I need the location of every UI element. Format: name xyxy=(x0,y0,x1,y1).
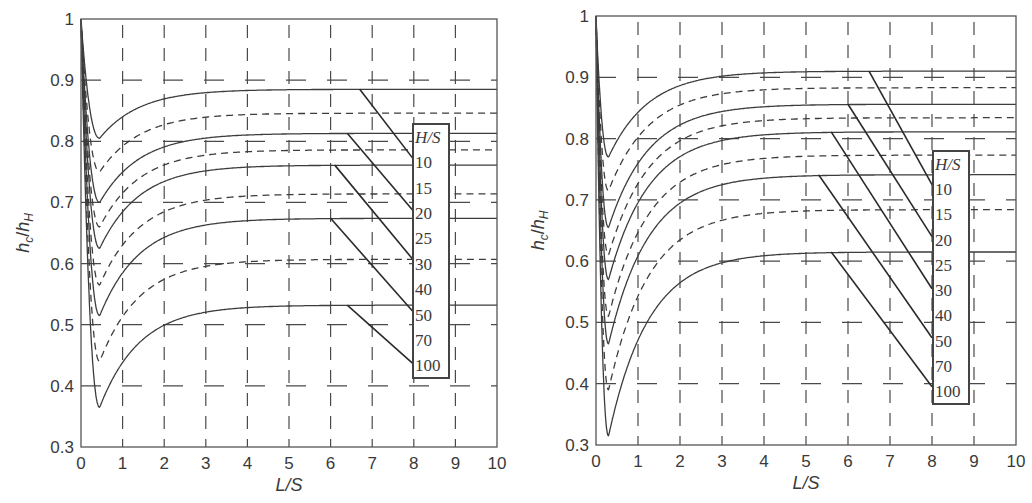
y-tick-label: 0.5 xyxy=(565,313,589,332)
x-tick-label: 10 xyxy=(1007,452,1026,471)
chart-figure: 0123456789100.30.40.50.60.70.80.91L/Shc/… xyxy=(0,0,1032,503)
series-line-hs-10 xyxy=(596,16,1016,157)
x-tick-label: 0 xyxy=(591,452,600,471)
y-tick-label: 0.3 xyxy=(50,438,74,457)
y-tick-label: 0.9 xyxy=(50,71,74,90)
legend: H/S1015202530405070100 xyxy=(933,151,969,404)
y-tick-label: 0.6 xyxy=(565,252,589,271)
y-axis-label: hc/hH xyxy=(528,210,551,250)
x-tick-label: 2 xyxy=(675,452,684,471)
y-tick-label: 0.3 xyxy=(565,436,589,455)
legend-entry-hs-40: 40 xyxy=(415,280,432,299)
legend-entry-hs-50: 50 xyxy=(415,306,432,325)
legend-leader-lines xyxy=(331,89,414,364)
x-tick-label: 1 xyxy=(633,452,642,471)
x-tick-label: 3 xyxy=(717,452,726,471)
leader-line-hs-100 xyxy=(347,305,414,364)
x-tick-label: 9 xyxy=(451,454,460,473)
x-tick-label: 1 xyxy=(118,454,127,473)
legend-entry-hs-30: 30 xyxy=(415,255,432,274)
y-tick-label: 0.6 xyxy=(50,255,74,274)
legend-entry-hs-50: 50 xyxy=(935,332,952,351)
x-tick-label: 2 xyxy=(159,454,168,473)
y-tick-label: 0.8 xyxy=(565,130,589,149)
legend-entry-hs-20: 20 xyxy=(415,204,432,223)
x-tick-label: 4 xyxy=(759,452,768,471)
y-tick-label: 0.7 xyxy=(50,193,74,212)
left-chart-panel: 0123456789100.30.40.50.60.70.80.91L/Shc/… xyxy=(13,10,506,495)
legend-title: H/S xyxy=(934,155,961,174)
legend-entry-hs-20: 20 xyxy=(935,231,952,250)
x-tick-labels: 012345678910 xyxy=(591,452,1025,471)
y-tick-label: 0.4 xyxy=(565,375,589,394)
x-tick-label: 5 xyxy=(801,452,810,471)
legend-entry-hs-25: 25 xyxy=(935,256,952,275)
x-axis-label: L/S xyxy=(275,475,302,495)
y-tick-label: 0.8 xyxy=(50,132,74,151)
y-tick-label: 1 xyxy=(65,10,74,29)
x-tick-label: 0 xyxy=(76,454,85,473)
legend: H/S1015202530405070100 xyxy=(413,124,449,378)
x-tick-label: 7 xyxy=(885,452,894,471)
x-tick-label: 5 xyxy=(284,454,293,473)
x-tick-label: 3 xyxy=(201,454,210,473)
x-axis-label: L/S xyxy=(792,473,819,493)
x-tick-label: 10 xyxy=(488,454,507,473)
x-tick-labels: 012345678910 xyxy=(76,454,506,473)
y-tick-label: 1 xyxy=(580,7,589,26)
legend-entry-hs-10: 10 xyxy=(415,153,432,172)
legend-title: H/S xyxy=(414,128,441,147)
leader-line-hs-100 xyxy=(831,252,932,387)
x-tick-label: 6 xyxy=(326,454,335,473)
x-tick-label: 7 xyxy=(367,454,376,473)
leader-line-hs-10 xyxy=(869,71,932,184)
leader-line-hs-10 xyxy=(360,89,414,159)
legend-entry-hs-100: 100 xyxy=(415,356,441,375)
y-tick-label: 0.9 xyxy=(565,68,589,87)
legend-entry-hs-15: 15 xyxy=(935,205,952,224)
leader-line-hs-30 xyxy=(335,165,414,260)
leader-line-hs-20 xyxy=(347,133,414,211)
y-tick-label: 0.7 xyxy=(565,191,589,210)
legend-entry-hs-100: 100 xyxy=(935,382,961,401)
x-tick-label: 6 xyxy=(843,452,852,471)
legend-entry-hs-40: 40 xyxy=(935,306,952,325)
legend-entry-hs-70: 70 xyxy=(935,357,952,376)
y-axis-label: hc/hH xyxy=(13,213,36,253)
x-tick-label: 8 xyxy=(409,454,418,473)
y-tick-label: 0.5 xyxy=(50,316,74,335)
x-tick-label: 9 xyxy=(969,452,978,471)
legend-entry-hs-10: 10 xyxy=(935,180,952,199)
x-tick-label: 4 xyxy=(243,454,252,473)
y-tick-labels: 0.30.40.50.60.70.80.91 xyxy=(50,10,74,457)
y-tick-label: 0.4 xyxy=(50,377,74,396)
legend-entry-hs-25: 25 xyxy=(415,229,432,248)
legend-entry-hs-70: 70 xyxy=(415,331,432,350)
right-chart-panel: 0123456789100.30.40.50.60.70.80.91L/Shc/… xyxy=(528,7,1025,493)
x-tick-label: 8 xyxy=(927,452,936,471)
y-tick-labels: 0.30.40.50.60.70.80.91 xyxy=(565,7,589,455)
legend-entry-hs-30: 30 xyxy=(935,281,952,300)
legend-entry-hs-15: 15 xyxy=(415,179,432,198)
